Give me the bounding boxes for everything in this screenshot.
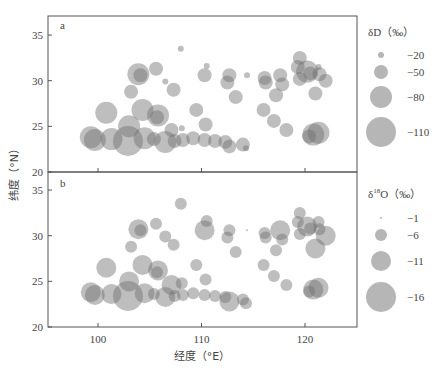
data-bubble — [162, 79, 168, 85]
legend-label: −16 — [407, 291, 425, 303]
data-bubble — [276, 233, 288, 245]
data-bubble — [179, 125, 185, 131]
data-bubble — [199, 118, 213, 132]
data-bubble — [195, 220, 215, 240]
data-bubble — [125, 241, 137, 253]
data-bubble — [96, 258, 116, 278]
data-bubble — [280, 279, 292, 291]
data-bubble — [275, 77, 289, 91]
legend-label: −80 — [407, 91, 425, 103]
data-bubble — [133, 68, 147, 82]
y-tick-label: 20 — [32, 321, 44, 333]
data-bubble — [190, 259, 202, 271]
legend-bubble — [371, 251, 391, 271]
panel-a-label: a — [60, 19, 65, 31]
data-bubble — [187, 287, 199, 299]
legend-bubble — [380, 217, 382, 219]
data-bubble — [267, 114, 281, 128]
data-bubble — [229, 90, 243, 104]
data-bubble — [177, 289, 189, 301]
data-bubble — [293, 72, 307, 86]
panel-b-label: b — [60, 177, 66, 189]
y-tick-label: 20 — [32, 166, 44, 178]
data-bubble — [270, 244, 282, 256]
data-bubble — [149, 62, 163, 76]
data-bubble — [167, 83, 181, 97]
data-bubble — [246, 229, 248, 231]
data-bubble — [175, 198, 187, 210]
data-bubble — [303, 285, 315, 297]
data-bubble — [168, 239, 180, 251]
legend-label: −6 — [407, 229, 419, 241]
data-bubble — [223, 224, 235, 236]
data-bubble — [189, 103, 203, 117]
data-bubble — [178, 46, 184, 52]
y-tick-label: 30 — [32, 230, 44, 242]
data-bubble — [222, 68, 236, 82]
data-bubble — [258, 259, 270, 271]
legend-bubble — [366, 117, 396, 147]
legend-delta-d: −20−50−80−110 — [366, 49, 430, 147]
legend-bubble — [370, 86, 392, 108]
data-bubble — [302, 129, 316, 143]
data-bubble — [243, 145, 249, 151]
data-bubble — [198, 68, 212, 82]
legend-b-title: δ18O（‰） — [368, 187, 421, 200]
data-bubble — [305, 239, 325, 259]
data-bubble — [308, 87, 322, 101]
data-bubble — [319, 74, 333, 88]
y-tick-label: 35 — [32, 184, 44, 196]
data-bubble — [219, 291, 231, 303]
data-bubble — [150, 110, 164, 124]
legend-b-title-rest: O（‰） — [380, 188, 421, 200]
data-bubble — [257, 103, 271, 117]
legend-label: −11 — [407, 255, 424, 267]
legend-a-title: δD（‰） — [368, 26, 414, 38]
data-bubble — [268, 270, 280, 282]
x-axis-title: 经度（°E） — [174, 349, 230, 363]
y-tick-label: 30 — [32, 75, 44, 87]
data-bubble — [218, 135, 232, 149]
legend-bubble — [375, 229, 387, 241]
y-tick-label: 25 — [32, 275, 44, 287]
data-bubble — [150, 218, 162, 230]
y-tick-label: 25 — [32, 120, 44, 132]
legend-bubble — [378, 52, 384, 58]
x-tick-label: 120 — [297, 333, 314, 345]
x-tick-label: 100 — [90, 333, 107, 345]
x-tick-label: 110 — [193, 333, 210, 345]
data-bubble — [240, 297, 252, 309]
data-bubble — [279, 123, 293, 137]
legend-label: −50 — [407, 66, 425, 78]
data-bubble — [124, 85, 138, 99]
data-bubble — [151, 266, 163, 278]
legend-label: −110 — [407, 126, 430, 138]
data-bubble — [294, 228, 306, 240]
data-bubble — [134, 224, 146, 236]
legend-label: −1 — [407, 212, 419, 224]
y-axis-title: 纬度（°N） — [7, 143, 21, 201]
legend-delta-18o: −1−6−11−16 — [366, 212, 425, 312]
bubble-chart: a b 1001101202020252530303535 经度（°E） 纬度（… — [0, 0, 440, 376]
data-bubble — [209, 290, 221, 302]
data-bubble — [176, 277, 188, 289]
data-bubble — [95, 102, 117, 124]
data-bubble — [259, 227, 271, 239]
legend-bubble — [374, 65, 388, 79]
panel-a-bubbles — [80, 46, 333, 156]
legend-label: −20 — [407, 49, 425, 61]
data-bubble — [200, 274, 212, 286]
data-bubble — [230, 246, 242, 258]
data-bubble — [199, 289, 211, 301]
data-bubble — [244, 72, 250, 78]
y-tick-label: 35 — [32, 29, 44, 41]
panel-b-bubbles — [81, 198, 336, 312]
data-bubble — [258, 71, 272, 85]
legend-bubble — [366, 282, 396, 312]
